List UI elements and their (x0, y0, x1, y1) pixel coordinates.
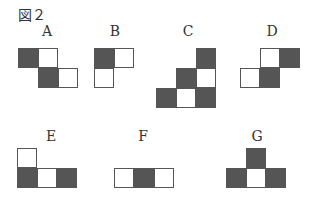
dark-square (176, 68, 196, 88)
dark-square (266, 168, 286, 188)
light-square (37, 168, 57, 188)
light-square (154, 168, 174, 188)
shape-label: C (178, 23, 198, 39)
dark-square (260, 68, 280, 88)
dark-square (156, 88, 176, 108)
dark-square (17, 168, 37, 188)
shape-label: B (105, 23, 125, 39)
dark-square (134, 168, 154, 188)
shape-label: D (262, 23, 282, 39)
shape-label: E (41, 128, 61, 144)
dark-square (246, 148, 266, 168)
shape-label: F (133, 128, 153, 144)
light-square (246, 168, 266, 188)
shape-label: A (37, 23, 57, 39)
light-square (176, 88, 196, 108)
dark-square (38, 68, 58, 88)
dark-square (94, 48, 114, 68)
light-square (58, 68, 78, 88)
dark-square (57, 168, 77, 188)
dark-square (226, 168, 246, 188)
dark-square (18, 48, 38, 68)
shape-label: G (247, 128, 267, 144)
figure-title: 図２ (18, 4, 46, 24)
dark-square (196, 48, 216, 68)
light-square (260, 48, 280, 68)
light-square (94, 68, 114, 88)
light-square (196, 68, 216, 88)
light-square (17, 148, 37, 168)
light-square (38, 48, 58, 68)
dark-square (280, 48, 300, 68)
light-square (240, 68, 260, 88)
dark-square (196, 88, 216, 108)
light-square (114, 48, 134, 68)
light-square (114, 168, 134, 188)
